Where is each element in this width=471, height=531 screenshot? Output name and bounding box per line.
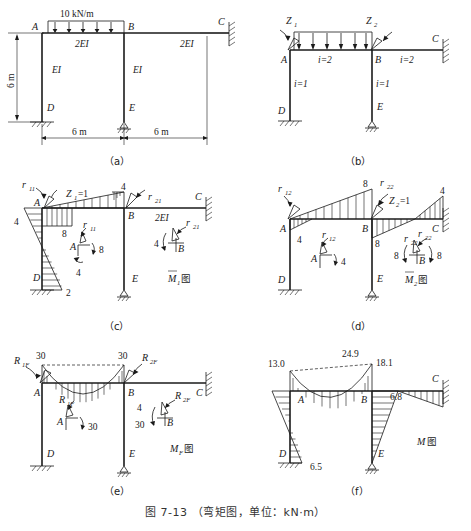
panel-f-joint-E: E [377,448,384,459]
panel-c-fbd-A-right: 8 [99,245,104,255]
panel-d-joint-B: B [362,223,368,234]
panel-e-joint-A: A [33,387,41,398]
panel-b-Z1-sub: 1 [294,21,297,28]
panel-c-Z-sub: 1 [74,194,77,201]
panel-d-r22-symbol: r [380,177,384,188]
panel-a-dim-height: 6 m [6,33,44,122]
panel-d-fbd-B-right: 8 [437,251,442,261]
panel-c-fbd-A: A r 11 8 4 [69,219,104,278]
panel-e-fbd-B-joint: B [167,417,173,428]
panel-e-fbd-R1F-symbol: R [58,394,65,405]
panel-f-ord-A-top: 13.0 [268,359,285,369]
panel-d-r22-span-sub: 22 [411,239,418,246]
panel-c-fbd-r21-sub: 21 [193,223,200,230]
panel-a-member-AD-label: EI [51,65,62,75]
panel-d-title: M 2 图 [404,272,428,287]
support-C-hatch [443,208,449,232]
panel-d-fbd-B-left: 8 [394,251,399,261]
panel-f-title: M 图 [416,436,437,447]
panel-d-r12-symbol: r [278,183,282,194]
panel-a-dim-height-label: 6 m [6,73,16,88]
panel-c-fbd-B-joint: B [178,243,184,254]
panel-b-joint-A: A [280,54,288,65]
panel-a-joint-A: A [31,21,39,32]
panel-b-i-BC: i=2 [400,55,414,65]
panel-c-r11-symbol: r [22,179,26,190]
support-D-hatch [32,466,51,471]
panel-c-r21-symbol: r [148,191,152,202]
panel-e-joint-B: B [128,387,134,398]
load-arrows [297,33,368,50]
panel-c-joint-A: A [33,197,41,208]
support-D-hatch [280,121,299,126]
panel-c-diagram-A-block [42,208,72,226]
panel-e-R1F-sub: 1F [22,361,30,368]
support-D-hatch [280,290,299,295]
panel-f-joint-C: C [432,373,439,384]
panel-c-title-sub: 1 [177,279,180,286]
panel-d-r22-top: r 22 [380,177,394,190]
rigid-clamp-B [371,32,392,50]
panel-c-ord-B-top: 4 [121,182,126,192]
panel-c-ord-D-bottom: 2 [66,288,71,298]
panel-e-fbd-A-right: 30 [88,422,98,432]
panel-c-fbd-A-joint: A [69,241,77,252]
figure-canvas: 10 kN/m A B C D E 2EI 2EI EI EI 6 m [0,0,471,531]
panel-e-R2F-top: R 2F [141,352,158,365]
support-E [365,121,379,132]
support-C-hatch [443,380,449,404]
panel-e-title-M: M [169,443,179,454]
panel-f-ord-AB-mid: 24.9 [342,349,359,359]
panel-d-fbd-B-r22-label: r 22 [418,228,432,241]
panel-c-fbd-A-bottom: 4 [76,268,81,278]
panel-d-applied-Z2: Z 2 =1 [389,195,410,208]
panel-a-joint-C: C [218,16,225,27]
panel-f-diagram-BC [398,391,443,407]
panel-e-joint-D: D [46,448,55,459]
panel-d-fbd-A-r12-label: r 12 [322,229,336,242]
panel-b-joint-D: D [277,105,286,116]
support-D-hatch [32,290,51,295]
panel-f-joint-D: D [278,448,287,459]
panel-e-fbd-R1F-sub: 1F [67,400,75,407]
panel-c-r11-top: r 11 [22,179,35,192]
figure-7-13: 10 kN/m A B C D E 2EI 2EI EI EI 6 m [0,0,471,531]
panel-e-R1F-top: R 1F [13,355,30,368]
support-D-hatch [32,122,51,127]
panel-b-caption: （b） [345,156,371,167]
panel-c-caption: （c） [104,321,130,332]
panel-f-title-suffix: 图 [427,437,437,447]
panel-a-caption: （a） [104,156,130,167]
rigid-clamp-A [280,30,299,50]
panel-e-parabola [42,365,124,394]
panel-e-caption: （e） [104,486,130,497]
panel-f-ord-BC: 6.8 [390,392,402,402]
panel-d-caption: （d） [345,321,371,332]
panel-b-joint-C: C [432,33,439,44]
figure-caption: 图 7-13 （弯矩图，单位：kN·m） [0,503,471,519]
panel-d-Z-value: =1 [400,196,410,206]
panel-d-ord-B-top: 8 [363,179,368,189]
panel-f-caption: （f） [345,486,369,497]
panel-c-title-M: M [167,273,177,284]
panel-b-i-AD: i=1 [294,79,308,89]
panel-d-ord-C-top: 4 [440,186,445,196]
panel-e-ord-A-top: 30 [36,351,46,361]
panel-e-fbd-A-R1F-label: R 1F [58,394,75,407]
panel-d-fbd-A: A r 12 4 [310,229,346,268]
panel-e-fbd-B: B R 2F 4 30 [135,390,191,430]
panel-d-ord-B-below: 8 [375,239,380,249]
panel-e-fbd-A-joint: A [56,416,64,427]
panel-d-clamp-B [371,194,388,219]
panel-e: R 1F R 2F 30 30 A B C D E A R 1F 30 [13,351,212,497]
panel-c-fbd-r21-symbol: r [186,217,190,228]
support-C-hatch [206,372,212,396]
panel-c-member-BC-label: 2EI [155,213,170,223]
panel-e-clamp-B [124,364,142,383]
panel-d-joint-C: C [432,223,439,234]
panel-c-Z-value: =1 [78,189,88,199]
panel-b-joint-E: E [376,101,383,112]
panel-c-clamp-B [126,190,145,208]
panel-b: Z 1 Z 2 A B C D E i=2 i=2 i=1 i=1 （b） [277,15,449,167]
panel-a-joint-D: D [46,102,55,113]
